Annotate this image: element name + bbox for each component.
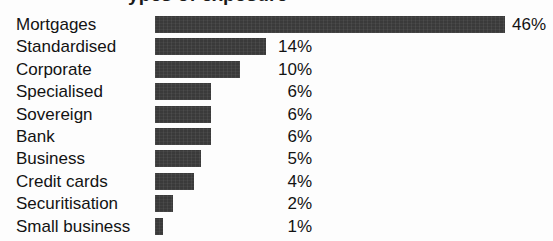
value-label: 5% <box>0 148 312 170</box>
bar-chart: ypes of exposure Mortgages46%Standardise… <box>0 0 553 241</box>
value-label: 6% <box>0 104 312 126</box>
value-label: 6% <box>0 126 312 148</box>
chart-row: Small business1% <box>0 216 553 238</box>
value-label: 1% <box>0 216 312 238</box>
value-label: 2% <box>0 193 312 215</box>
chart-row: Specialised6% <box>0 81 553 103</box>
bar <box>155 16 505 33</box>
bar-track <box>155 16 505 33</box>
category-label: Mortgages <box>16 14 96 36</box>
chart-row: Securitisation2% <box>0 193 553 215</box>
value-label: 46% <box>512 14 546 36</box>
value-label: 6% <box>0 81 312 103</box>
chart-row: Credit cards4% <box>0 171 553 193</box>
value-label: 14% <box>0 36 312 58</box>
chart-row: Corporate10% <box>0 59 553 81</box>
value-label: 4% <box>0 171 312 193</box>
chart-row: Business5% <box>0 148 553 170</box>
chart-row: Bank6% <box>0 126 553 148</box>
chart-row: Standardised14% <box>0 36 553 58</box>
value-label: 10% <box>0 59 312 81</box>
chart-row: Sovereign6% <box>0 104 553 126</box>
chart-rows: Mortgages46%Standardised14%Corporate10%S… <box>0 0 553 241</box>
chart-row: Mortgages46% <box>0 14 553 36</box>
